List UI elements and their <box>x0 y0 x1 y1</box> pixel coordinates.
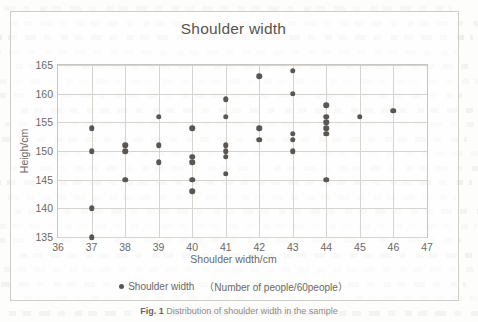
x-axis-label: Shoulder width/cm <box>10 253 457 265</box>
plot-area: 1351401451501551601653637383940414243444… <box>57 64 428 238</box>
x-axis-tick-label: 36 <box>52 241 64 253</box>
gridline-horizontal <box>58 237 427 238</box>
data-point <box>324 120 330 126</box>
data-point <box>257 74 263 80</box>
data-point <box>324 125 330 131</box>
data-point <box>156 143 162 149</box>
figure-caption: Fig. 1 Distribution of shoulder width in… <box>0 306 478 316</box>
data-point <box>324 114 330 120</box>
x-axis-tick-label: 40 <box>186 241 198 253</box>
data-point <box>156 114 162 120</box>
data-point <box>257 125 263 131</box>
x-axis-tick-label: 46 <box>388 241 400 253</box>
data-point <box>189 177 195 183</box>
x-axis-tick-label: 41 <box>220 241 232 253</box>
data-point <box>324 102 330 108</box>
data-point <box>122 143 128 149</box>
figure-caption-text: Distribution of shoulder width in the sa… <box>166 306 338 316</box>
data-point <box>156 160 162 166</box>
gridline-horizontal <box>58 94 427 95</box>
data-point <box>122 148 128 154</box>
data-point <box>89 234 95 240</box>
gridline-horizontal <box>58 151 427 152</box>
gridline-vertical <box>259 65 260 237</box>
gridline-vertical <box>393 65 394 237</box>
scatter-chart: Shoulder width 1351401451501551601653637… <box>10 11 457 299</box>
y-axis-tick-label: 160 <box>35 88 53 100</box>
y-axis-tick-label: 140 <box>35 202 53 214</box>
data-point <box>223 154 229 160</box>
gridline-horizontal <box>58 122 427 123</box>
x-axis-tick-label: 44 <box>321 241 333 253</box>
data-point <box>257 137 263 143</box>
chart-legend: Shoulder width （Number of people/60peopl… <box>10 279 457 294</box>
data-point <box>290 148 296 154</box>
legend-note: （Number of people/60people） <box>204 279 347 294</box>
gridline-vertical <box>326 65 327 237</box>
data-point <box>223 148 229 154</box>
y-axis-tick-label: 135 <box>35 231 53 243</box>
data-point <box>391 108 397 114</box>
data-point <box>357 114 363 120</box>
gridline-horizontal <box>58 65 427 66</box>
y-axis-tick-label: 145 <box>35 174 53 186</box>
gridline-vertical <box>159 65 160 237</box>
data-point <box>290 91 296 97</box>
y-axis-tick-label: 150 <box>35 145 53 157</box>
data-point <box>189 154 195 160</box>
x-axis-tick-label: 47 <box>421 241 433 253</box>
gridline-vertical <box>192 65 193 237</box>
figure-number: Fig. 1 <box>140 306 164 316</box>
data-point <box>290 137 296 143</box>
data-point <box>89 206 95 212</box>
data-point <box>223 143 229 149</box>
data-point <box>122 177 128 183</box>
data-point <box>223 114 229 120</box>
legend-label: Shoulder width <box>128 281 194 292</box>
data-point <box>324 177 330 183</box>
gridline-horizontal <box>58 180 427 181</box>
x-axis-tick-label: 42 <box>253 241 265 253</box>
data-point <box>223 97 229 103</box>
data-point <box>324 131 330 137</box>
gridline-horizontal <box>58 208 427 209</box>
y-axis-tick-label: 165 <box>35 59 53 71</box>
x-axis-tick-label: 37 <box>86 241 98 253</box>
data-point <box>290 131 296 137</box>
data-point <box>189 160 195 166</box>
x-axis-tick-label: 45 <box>354 241 366 253</box>
chart-title: Shoulder width <box>10 20 457 38</box>
data-point <box>189 188 195 194</box>
x-axis-tick-label: 38 <box>119 241 131 253</box>
y-axis-label: Heigh/cm <box>18 129 30 173</box>
data-point <box>290 68 296 74</box>
data-point <box>89 148 95 154</box>
legend-marker-icon <box>119 284 124 289</box>
x-axis-tick-label: 39 <box>153 241 165 253</box>
data-point <box>223 171 229 177</box>
gridline-vertical <box>360 65 361 237</box>
data-point <box>189 125 195 131</box>
y-axis-tick-label: 155 <box>35 116 53 128</box>
x-axis-tick-label: 43 <box>287 241 299 253</box>
data-point <box>89 125 95 131</box>
